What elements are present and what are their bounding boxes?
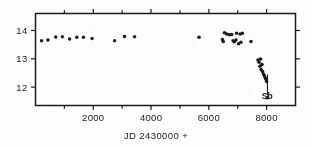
data-point xyxy=(82,36,86,40)
sb-label: Sb xyxy=(262,91,273,101)
x-axis-ticks xyxy=(64,9,266,110)
data-point xyxy=(235,32,239,36)
data-point xyxy=(123,35,127,39)
data-point-series xyxy=(40,31,269,83)
data-point xyxy=(133,35,137,39)
data-point xyxy=(241,32,245,36)
data-point xyxy=(259,57,263,61)
data-point xyxy=(257,60,261,64)
data-point xyxy=(222,40,226,44)
data-point xyxy=(234,38,238,42)
data-point xyxy=(75,36,79,40)
data-point xyxy=(61,35,65,39)
x-tick-label: 4000 xyxy=(140,112,162,123)
sb-annotation: Sb xyxy=(262,91,273,101)
x-axis-label: JD 2430000 + xyxy=(124,130,188,141)
x-tick-label: 6000 xyxy=(198,112,220,123)
data-point xyxy=(197,36,201,40)
data-point xyxy=(113,39,117,43)
data-point xyxy=(40,39,44,43)
y-tick-label: 13 xyxy=(16,53,27,64)
y-tick-label: 14 xyxy=(16,25,27,36)
data-point xyxy=(90,37,94,41)
data-point xyxy=(68,37,72,41)
light-curve-figure: 2000400060008000 121314 Sb JD 2430000 + xyxy=(0,0,312,149)
data-point xyxy=(249,40,253,44)
y-tick-label: 12 xyxy=(16,82,27,93)
data-point xyxy=(46,38,50,42)
plot-canvas: 2000400060008000 121314 Sb JD 2430000 + xyxy=(0,0,312,149)
data-point xyxy=(260,63,264,67)
data-point xyxy=(54,35,58,39)
x-tick-label: 8000 xyxy=(255,112,277,123)
x-tick-label: 2000 xyxy=(82,112,104,123)
data-point xyxy=(230,33,234,37)
x-axis-tick-labels: 2000400060008000 xyxy=(82,112,278,123)
y-axis-tick-labels: 121314 xyxy=(16,25,27,93)
data-point xyxy=(239,41,243,45)
